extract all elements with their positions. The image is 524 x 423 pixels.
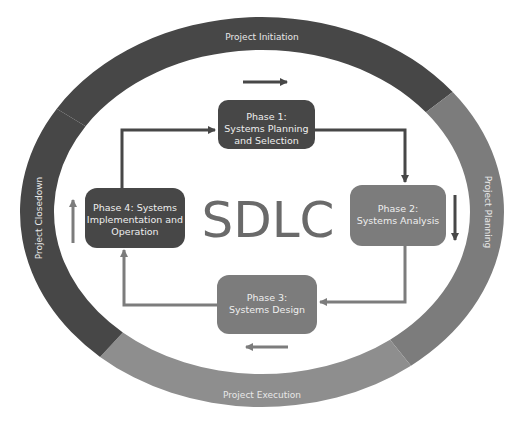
connector-phase1-to-phase2: [315, 130, 405, 182]
ring-label-planning: Project Planning: [483, 176, 493, 248]
connector-phase4-to-phase1: [122, 130, 215, 188]
ring-label-execution: Project Execution: [223, 390, 301, 400]
phase3-box[interactable]: Phase 3: Systems Design: [217, 275, 317, 334]
phase4-box[interactable]: Phase 4: Systems Implementation and Oper…: [85, 188, 185, 248]
phase1-line-1: Phase 1:: [246, 111, 287, 122]
phase4-line-3: Operation: [111, 226, 158, 237]
phase3-line-1: Phase 3:: [247, 292, 288, 303]
diagram-title: SDLC: [201, 191, 334, 249]
phase4-line-1: Phase 4: Systems: [93, 202, 177, 213]
ring-label-initiation: Project Initiation: [225, 32, 298, 42]
connector-phase2-to-phase3: [320, 245, 405, 302]
phase4-line-2: Implementation and: [87, 214, 183, 225]
phase1-line-3: and Selection: [234, 135, 299, 146]
ring-label-closedown: Project Closedown: [34, 177, 44, 259]
phase2-line-2: Systems Analysis: [357, 215, 440, 226]
phase3-line-2: Systems Design: [229, 304, 305, 315]
connector-phase3-to-phase4: [124, 250, 217, 305]
phase1-box[interactable]: Phase 1: Systems Planning and Selection: [218, 100, 315, 149]
sdlc-diagram: Project Initiation Project Planning Proj…: [0, 0, 524, 423]
phase2-box[interactable]: Phase 2: Systems Analysis: [350, 185, 446, 246]
phase2-line-1: Phase 2:: [378, 203, 419, 214]
phase1-line-2: Systems Planning: [224, 123, 308, 134]
